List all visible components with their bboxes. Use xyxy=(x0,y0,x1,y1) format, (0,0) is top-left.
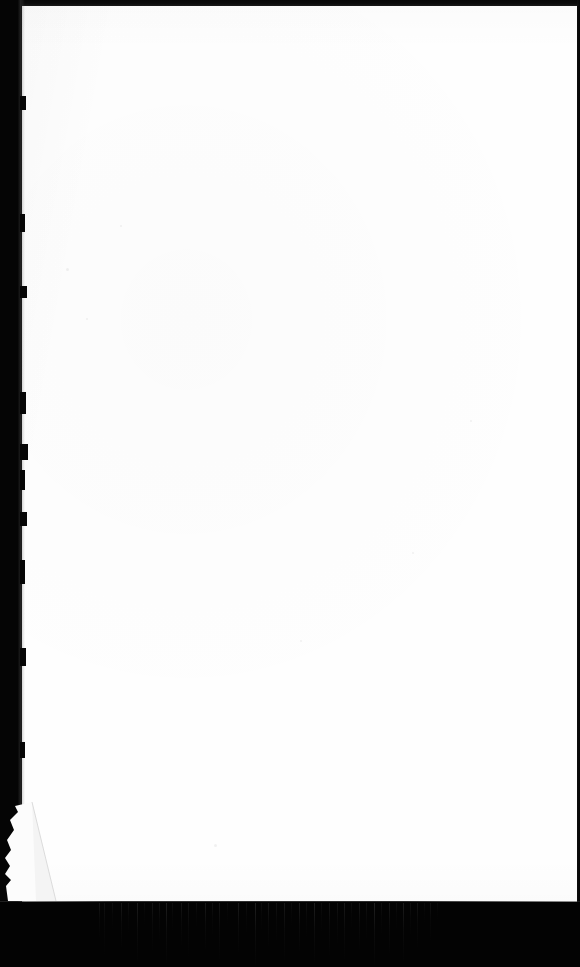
scan-streak xyxy=(205,903,206,949)
paper-speck xyxy=(300,640,302,642)
page-edge-bottom xyxy=(0,902,580,967)
scan-streak xyxy=(144,903,145,925)
scan-streak xyxy=(299,903,300,951)
scan-streak xyxy=(359,903,360,949)
scan-streak xyxy=(366,903,367,939)
scan-streak xyxy=(306,903,307,937)
paper-speck xyxy=(214,844,217,847)
scan-streak xyxy=(351,903,352,927)
scan-streak xyxy=(437,903,438,919)
paper-speck xyxy=(66,268,69,271)
page-edge-nick xyxy=(20,470,25,490)
page-edge-nick xyxy=(20,392,26,414)
scan-streak xyxy=(417,903,418,947)
scan-streak xyxy=(344,903,345,959)
page-edge-nick xyxy=(20,512,27,526)
page-edge-nick xyxy=(20,560,25,584)
page-edge-top xyxy=(0,0,580,6)
scan-streak xyxy=(181,903,182,945)
page-edge-nick xyxy=(20,742,25,758)
scan-streak xyxy=(128,903,129,933)
page-edge-nick xyxy=(20,214,25,232)
scan-streak xyxy=(172,903,173,931)
scan-streak xyxy=(410,903,411,935)
scan-streak xyxy=(276,903,277,941)
scan-streak xyxy=(314,903,315,963)
scan-streak xyxy=(159,903,160,939)
scan-streak xyxy=(268,903,269,947)
paper-speck xyxy=(412,552,414,554)
scan-streak xyxy=(389,903,390,953)
scan-streak xyxy=(329,903,330,955)
scan-streak xyxy=(212,903,213,935)
scan-streak xyxy=(152,903,153,951)
scan-streak xyxy=(403,903,404,961)
scan-streak xyxy=(166,903,167,963)
scan-streak xyxy=(188,903,189,957)
paper-speck xyxy=(120,225,122,227)
scan-streak xyxy=(137,903,138,961)
scan-streak xyxy=(196,903,197,927)
paper-speck xyxy=(470,420,472,422)
scan-streak xyxy=(227,903,228,923)
scan-streak xyxy=(424,903,425,923)
scan-streak xyxy=(238,903,239,953)
scan-streak xyxy=(396,903,397,929)
scan-streak xyxy=(381,903,382,933)
scan-streak xyxy=(255,903,256,965)
scan-streak xyxy=(337,903,338,943)
scan-streak xyxy=(219,903,220,959)
paper-speck xyxy=(86,318,88,320)
scanned-document-view xyxy=(0,0,580,967)
scan-streak xyxy=(321,903,322,931)
scan-streak xyxy=(374,903,375,965)
document-page[interactable] xyxy=(19,6,577,902)
page-edge-nick xyxy=(20,286,27,298)
scan-streak xyxy=(104,903,105,955)
scan-streak xyxy=(284,903,285,961)
scan-streak xyxy=(261,903,262,929)
scan-streak xyxy=(99,903,100,937)
page-edge-nick xyxy=(20,444,28,460)
page-edge-nick xyxy=(20,96,26,110)
scan-streak xyxy=(430,903,431,941)
scan-streak xyxy=(291,903,292,925)
scan-streak xyxy=(112,903,113,929)
scan-streak xyxy=(121,903,122,947)
paper-texture xyxy=(19,6,577,902)
page-edge-nick xyxy=(20,648,26,666)
scan-streak xyxy=(246,903,247,933)
